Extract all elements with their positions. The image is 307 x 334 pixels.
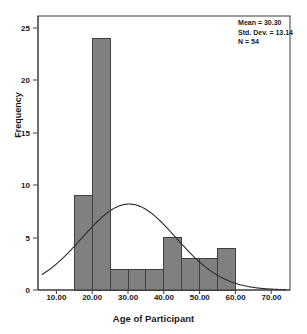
histogram-bar [164, 238, 182, 290]
histogram-bar [92, 38, 110, 290]
histogram-bar [110, 269, 128, 290]
histogram-bar [218, 248, 236, 290]
bars-group [74, 38, 235, 290]
plot-canvas [0, 0, 307, 334]
histogram-bar [128, 269, 146, 290]
histogram-bar [182, 259, 200, 290]
histogram-bar [146, 269, 164, 290]
histogram-chart: Frequency Age of Participant Mean = 30.3… [0, 0, 307, 334]
